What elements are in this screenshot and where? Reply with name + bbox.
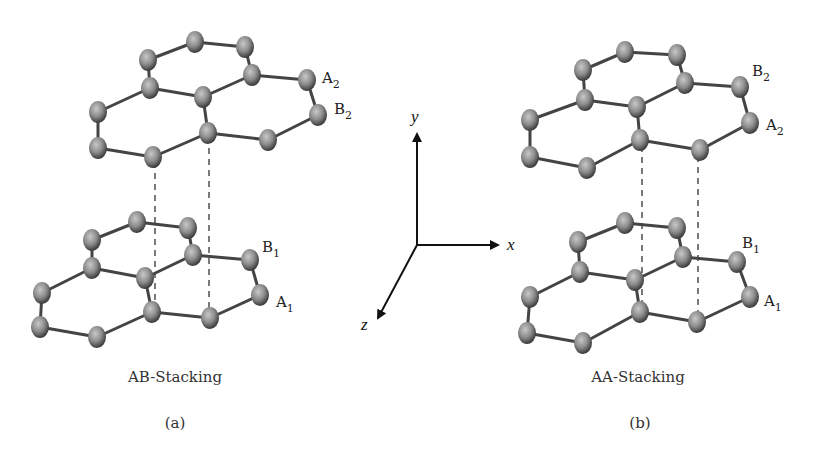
carbon-atom [578, 157, 596, 179]
carbon-atom [83, 229, 101, 251]
label-top-first: B2 [752, 62, 770, 84]
carbon-atom [128, 211, 146, 233]
bond [208, 133, 268, 140]
carbon-atom [616, 212, 634, 234]
carbon-atom [141, 77, 159, 99]
carbon-atom [199, 122, 217, 144]
panel-a: A2 B2 B1 A1 AB-Stacking (a) [31, 31, 352, 432]
carbon-atom [631, 301, 649, 323]
label-top-first: A2 [321, 69, 340, 91]
carbon-atom [518, 322, 536, 344]
carbon-atom [143, 301, 161, 323]
bond [583, 312, 640, 343]
stacking-diagram: A2 B2 B1 A1 AB-Stacking (a) y x z B2 A2 … [0, 0, 813, 456]
graphene-layer-top [89, 31, 327, 168]
carbon-atom [628, 96, 646, 118]
carbon-atom [674, 246, 692, 268]
carbon-atom [236, 36, 254, 58]
label-bottom-second: A1 [275, 293, 294, 315]
panel-label: (a) [165, 414, 186, 432]
carbon-atom [569, 231, 587, 253]
coordinate-axes: y x z [360, 107, 515, 334]
y-axis-label: y [409, 107, 419, 126]
carbon-atom [184, 244, 202, 266]
bond [640, 140, 700, 150]
carbon-atom [88, 326, 106, 348]
graphene-layer-bottom [31, 211, 269, 348]
carbon-atom [574, 59, 592, 81]
carbon-atom [259, 129, 277, 151]
graphene-layer-top [521, 41, 759, 179]
label-bottom-second: A1 [763, 292, 782, 314]
carbon-atom [83, 257, 101, 279]
carbon-atom [574, 332, 592, 354]
panel-b: B2 A2 B1 A1 AA-Stacking (b) [518, 41, 784, 432]
carbon-atom [688, 311, 706, 333]
carbon-atom [521, 286, 539, 308]
carbon-atom [728, 251, 746, 273]
carbon-atom [201, 307, 219, 329]
carbon-atom [668, 217, 686, 239]
label-top-second: B2 [334, 100, 352, 122]
carbon-atom [179, 217, 197, 239]
carbon-atom [668, 44, 686, 66]
carbon-atom [676, 72, 694, 94]
x-axis-label: x [506, 235, 515, 254]
carbon-atom [521, 146, 539, 168]
carbon-atom [741, 286, 759, 308]
panel-caption: AB-Stacking [127, 368, 222, 386]
carbon-atom [571, 261, 589, 283]
carbon-atom [251, 284, 269, 306]
carbon-atom [298, 69, 316, 91]
graphene-layer-bottom [518, 212, 759, 354]
z-axis-label: z [360, 315, 368, 334]
carbon-atom [521, 109, 539, 131]
carbon-atom [136, 267, 154, 289]
carbon-atom [186, 31, 204, 53]
carbon-atom [741, 112, 759, 134]
carbon-atom [31, 316, 49, 338]
carbon-atom [33, 282, 51, 304]
carbon-atom [144, 146, 162, 168]
label-bottom-first: B1 [742, 234, 760, 256]
carbon-atom [731, 76, 749, 98]
carbon-atom [631, 129, 649, 151]
panel-label: (b) [629, 414, 650, 432]
panel-caption: AA-Stacking [590, 368, 685, 386]
carbon-atom [576, 89, 594, 111]
carbon-atom [89, 101, 107, 123]
carbon-atom [241, 249, 259, 271]
carbon-atom [194, 86, 212, 108]
label-top-second: A2 [765, 116, 784, 138]
carbon-atom [89, 137, 107, 159]
z-axis-arrow [378, 245, 417, 318]
carbon-atom [309, 104, 327, 126]
carbon-atom [626, 269, 644, 291]
carbon-atom [616, 41, 634, 63]
carbon-atom [139, 49, 157, 71]
label-bottom-first: B1 [262, 238, 280, 260]
carbon-atom [243, 64, 261, 86]
carbon-atom [691, 139, 709, 161]
